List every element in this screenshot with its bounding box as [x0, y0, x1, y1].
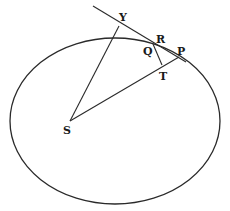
label-T: T [159, 70, 168, 83]
diagram-canvas: Y R Q P T S [0, 0, 230, 211]
label-Y: Y [118, 11, 127, 24]
label-Q: Q [143, 45, 153, 58]
tangent-line [93, 6, 186, 62]
label-R: R [156, 33, 166, 46]
label-P: P [177, 45, 185, 58]
label-S: S [63, 124, 71, 137]
diagram-svg: Y R Q P T S [0, 0, 230, 211]
ellipse-orbit [10, 38, 220, 204]
